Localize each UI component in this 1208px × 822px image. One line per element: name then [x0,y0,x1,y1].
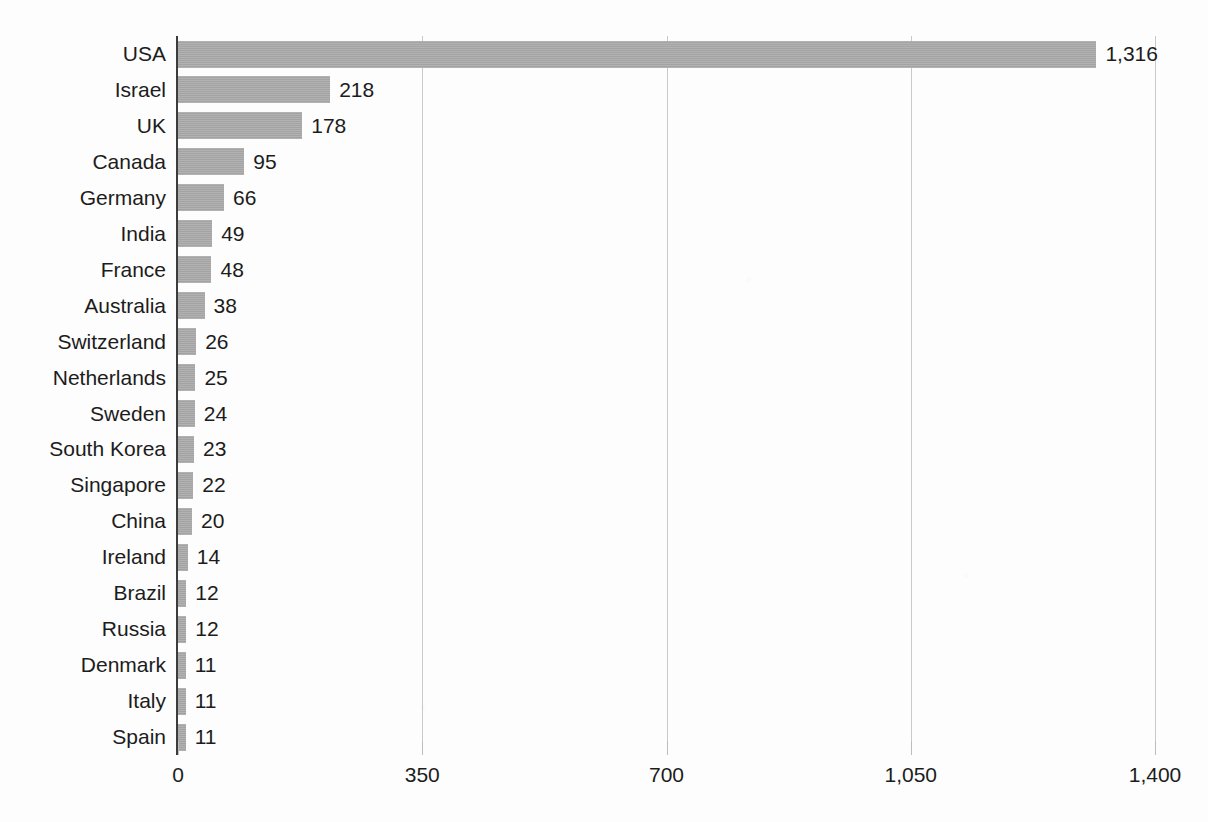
bar-value-label: 48 [220,252,243,288]
category-label: India [120,216,166,252]
bar-row: Canada95 [178,144,1155,180]
category-label: Germany [80,180,166,216]
bar-value-label: 26 [205,324,228,360]
bar-row: Italy11 [178,683,1155,719]
chart-title [0,0,1208,6]
bar [178,724,186,751]
category-label: Canada [92,144,166,180]
category-label: Denmark [81,647,166,683]
bar [178,76,330,103]
bar-row: Netherlands25 [178,360,1155,396]
bar-rows: USA1,316Israel218UK178Canada95Germany66I… [178,36,1155,755]
category-label: Netherlands [53,360,166,396]
bar-value-label: 12 [195,611,218,647]
bar-value-label: 66 [233,180,256,216]
bar [178,328,196,355]
bar-row: Russia12 [178,611,1155,647]
category-label: USA [123,36,166,72]
bar-row: UK178 [178,108,1155,144]
bar-row: Singapore22 [178,467,1155,503]
bar-row: USA1,316 [178,36,1155,72]
bar-row: Brazil12 [178,575,1155,611]
bar-value-label: 38 [214,288,237,324]
category-label: France [101,252,166,288]
category-label: China [111,503,166,539]
x-tick-mark [1155,741,1156,755]
bar [178,652,186,679]
bar [178,580,186,607]
bar-row: Ireland14 [178,539,1155,575]
bar [178,256,211,283]
bar-value-label: 22 [202,467,225,503]
category-label: Brazil [113,575,166,611]
bar-value-label: 178 [311,108,346,144]
bar-row: India49 [178,216,1155,252]
x-tick-label: 700 [649,763,684,787]
x-tick-label: 1,050 [884,763,937,787]
bar-value-label: 20 [201,503,224,539]
bar-value-label: 11 [195,719,217,755]
bar [178,436,194,463]
bar-value-label: 11 [195,683,217,719]
x-tick-label: 0 [172,763,184,787]
bar-row: Sweden24 [178,396,1155,432]
bar [178,220,212,247]
bar-value-label: 218 [339,72,374,108]
gridline-1400 [1155,36,1156,755]
bar-chart: USA1,316Israel218UK178Canada95Germany66I… [0,0,1208,822]
x-tick-mark [667,741,668,755]
category-label: Spain [112,719,166,755]
bar-row: France48 [178,252,1155,288]
category-label: UK [137,108,166,144]
bar-value-label: 14 [197,539,220,575]
bar-row: South Korea23 [178,431,1155,467]
bar [178,184,224,211]
category-label: Russia [102,611,166,647]
bar [178,292,205,319]
category-label: Israel [115,72,166,108]
bar-row: China20 [178,503,1155,539]
x-axis: 03507001,0501,400 [178,755,1155,801]
category-label: South Korea [49,431,166,467]
bar-value-label: 24 [204,396,227,432]
category-label: Italy [127,683,166,719]
bar-value-label: 23 [203,431,226,467]
category-label: Singapore [70,467,166,503]
bar-value-label: 95 [253,144,276,180]
bar-row: Germany66 [178,180,1155,216]
bar-row: Israel218 [178,72,1155,108]
category-label: Ireland [102,539,166,575]
bar-row: Switzerland26 [178,324,1155,360]
bar [178,544,188,571]
bar [178,400,195,427]
x-tick-mark [911,741,912,755]
category-label: Sweden [90,396,166,432]
bar-value-label: 49 [221,216,244,252]
bar-value-label: 11 [195,647,217,683]
bar [178,364,195,391]
bar-value-label: 25 [204,360,227,396]
bar-row: Australia38 [178,288,1155,324]
bar-value-label: 1,316 [1105,36,1158,72]
category-label: Switzerland [57,324,166,360]
bar [178,41,1096,68]
bar-value-label: 12 [195,575,218,611]
bar-row: Denmark11 [178,647,1155,683]
x-tick-mark [178,741,179,755]
bar [178,508,192,535]
bar [178,148,244,175]
bar [178,616,186,643]
category-label: Australia [84,288,166,324]
plot-area: USA1,316Israel218UK178Canada95Germany66I… [178,36,1155,755]
bar [178,688,186,715]
x-tick-label: 1,400 [1129,763,1182,787]
x-tick-mark [422,741,423,755]
x-tick-label: 350 [405,763,440,787]
bar [178,112,302,139]
bar [178,472,193,499]
